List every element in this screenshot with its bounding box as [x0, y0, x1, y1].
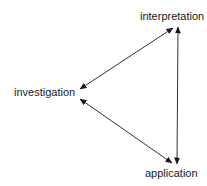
diagram-edges [0, 0, 207, 186]
edge-interpretation-application [177, 27, 178, 164]
edge-investigation-application [80, 99, 172, 163]
edge-investigation-interpretation [80, 28, 173, 89]
